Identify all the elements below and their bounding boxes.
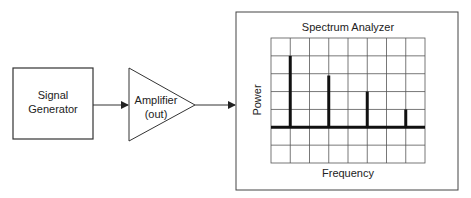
amplifier-label-line2: (out) [145, 108, 168, 120]
signal-generator-block: Signal Generator [13, 68, 93, 139]
x-axis-label: Frequency [322, 167, 374, 179]
amplifier-label-line1: Amplifier [135, 94, 178, 106]
analyzer-title: Spectrum Analyzer [302, 21, 395, 33]
signal-generator-label-line2: Generator [28, 103, 78, 115]
signal-generator-label-line1: Signal [38, 89, 69, 101]
amplifier-block: Amplifier (out) [129, 68, 195, 141]
y-axis-label: Power [251, 84, 263, 116]
block-diagram: Signal Generator Amplifier (out) Spectru… [0, 0, 471, 198]
spectrum-analyzer-block: Spectrum Analyzer Power Frequency [236, 12, 458, 190]
